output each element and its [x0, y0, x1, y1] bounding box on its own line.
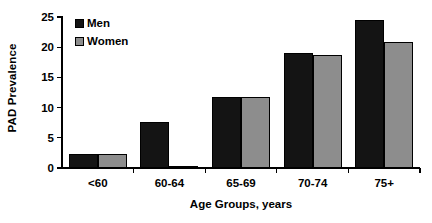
bar-women-70-74: [313, 55, 342, 168]
x-axis-title: Age Groups, years: [62, 198, 420, 210]
x-axis-tick: [348, 168, 349, 173]
y-axis-tick: [57, 137, 62, 138]
y-axis-tick: [57, 16, 62, 17]
y-axis-tick: [57, 167, 62, 168]
bar-men-<60: [69, 154, 98, 168]
chart-legend: MenWomen: [75, 16, 128, 49]
x-axis-category-label: <60: [88, 177, 108, 189]
bar-men-60-64: [140, 122, 169, 168]
bar-men-70-74: [284, 53, 313, 168]
bar-men-75+: [355, 20, 384, 168]
x-axis-category-label: 60-64: [155, 177, 184, 189]
x-axis-category-label: 75+: [374, 177, 394, 189]
bar-women-65-69: [241, 97, 270, 168]
legend-item-women: Women: [75, 34, 128, 49]
bar-women-<60: [98, 154, 127, 168]
x-axis-tick: [276, 168, 277, 173]
x-axis-tick: [133, 168, 134, 173]
x-axis-category-label: 70-74: [298, 177, 327, 189]
legend-swatch-men-icon: [75, 19, 84, 28]
bar-women-75+: [384, 42, 413, 168]
y-axis-tick-label: 10: [41, 102, 54, 114]
bar-men-65-69: [212, 97, 241, 168]
legend-swatch-women-icon: [75, 37, 84, 46]
bar-women-60-64: [169, 166, 198, 168]
x-axis-tick: [205, 168, 206, 173]
y-axis-title-text: PAD Prevalence: [6, 43, 18, 132]
y-axis-tick-label: 20: [41, 41, 54, 53]
y-axis-tick-label: 0: [48, 162, 54, 174]
y-axis-tick: [57, 77, 62, 78]
legend-item-men: Men: [75, 16, 128, 31]
y-axis-tick-label: 5: [48, 132, 54, 144]
y-axis-tick: [57, 107, 62, 108]
y-axis-tick-label: 15: [41, 71, 54, 83]
y-axis-title: PAD Prevalence: [2, 0, 22, 175]
x-axis-category-label: 65-69: [226, 177, 255, 189]
legend-label: Women: [87, 36, 128, 48]
legend-label: Men: [87, 18, 110, 30]
chart-figure: PAD Prevalence 0510152025<6060-6465-6970…: [0, 0, 432, 223]
y-axis-tick: [57, 47, 62, 48]
y-axis-tick-label: 25: [41, 11, 54, 23]
x-axis-tick: [419, 168, 420, 173]
